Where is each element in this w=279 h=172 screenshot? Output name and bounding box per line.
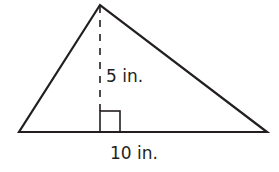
triangle-diagram: 5 in. 10 in. (0, 0, 279, 172)
height-label: 5 in. (106, 66, 143, 86)
base-label: 10 in. (110, 143, 158, 163)
right-angle-marker (100, 111, 120, 132)
